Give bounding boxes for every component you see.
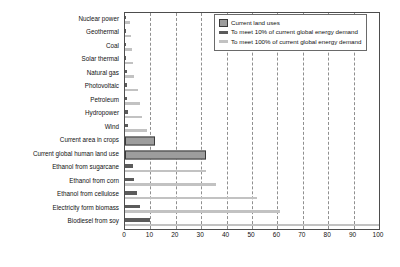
category-label: Wind <box>0 120 122 134</box>
bar-ten-percent-demand <box>125 218 150 221</box>
legend-item-hundred-percent-demand: To meet 100% of current global energy de… <box>219 37 361 47</box>
bar-hundred-percent-demand <box>125 210 280 213</box>
value-axis-tick-label: 100 <box>373 231 384 238</box>
category-label: Geothermal <box>0 26 122 40</box>
value-axis-tick-label: 10 <box>146 231 153 238</box>
category-label: Photovoltaic <box>0 80 122 94</box>
value-axis-ticks: 0102030405060708090100 <box>124 231 378 245</box>
value-axis-tick-label: 20 <box>171 231 178 238</box>
bar-ten-percent-demand <box>125 191 137 194</box>
bar-row <box>125 189 379 203</box>
legend-swatch-current-land-uses <box>219 19 228 27</box>
bar-ten-percent-demand <box>125 178 134 181</box>
bar-hundred-percent-demand <box>125 116 142 119</box>
chart-legend: Current land uses To meet 10% of current… <box>214 14 367 51</box>
horizontal-bar-chart: Nuclear powerGeothermalCoalSolar thermal… <box>0 0 400 267</box>
category-label: Ethanol from cellulose <box>0 188 122 202</box>
legend-label: Current land uses <box>231 20 280 26</box>
value-axis-tick-label: 40 <box>222 231 229 238</box>
category-label: Natural gas <box>0 66 122 80</box>
category-label: Ethanol from corn <box>0 174 122 188</box>
bar-ten-percent-demand <box>125 205 140 208</box>
bar-ten-percent-demand <box>125 29 126 32</box>
bar-hundred-percent-demand <box>125 224 379 227</box>
value-axis-tick-label: 80 <box>324 231 331 238</box>
value-axis-tick-label: 70 <box>298 231 305 238</box>
bar-row <box>125 108 379 122</box>
bar-row <box>125 121 379 135</box>
bar-hundred-percent-demand <box>125 35 131 38</box>
bar-row <box>125 216 379 230</box>
bar-hundred-percent-demand <box>125 75 134 78</box>
bar-row <box>125 162 379 176</box>
bar-hundred-percent-demand <box>125 183 216 186</box>
bar-ten-percent-demand <box>125 97 127 100</box>
bar-ten-percent-demand <box>125 43 126 46</box>
category-label: Coal <box>0 39 122 53</box>
bar-row <box>125 67 379 81</box>
bar-hundred-percent-demand <box>125 21 130 24</box>
value-axis-tick-label: 50 <box>247 231 254 238</box>
bar-current-land-uses <box>125 150 206 159</box>
value-axis-tick-label: 60 <box>273 231 280 238</box>
bar-ten-percent-demand <box>125 70 127 73</box>
bar-hundred-percent-demand <box>125 129 147 132</box>
bar-current-land-uses <box>125 137 155 146</box>
value-axis-tick-label: 90 <box>349 231 356 238</box>
category-label: Solar thermal <box>0 53 122 67</box>
legend-label: To meet 100% of current global energy de… <box>231 39 361 45</box>
category-label: Nuclear power <box>0 12 122 26</box>
bar-row <box>125 148 379 162</box>
category-label: Petroleum <box>0 93 122 107</box>
bar-ten-percent-demand <box>125 56 126 59</box>
bar-row <box>125 175 379 189</box>
bar-row <box>125 81 379 95</box>
legend-swatch-ten-percent-demand <box>219 28 228 36</box>
category-label: Current global human land use <box>0 147 122 161</box>
bar-ten-percent-demand <box>125 16 126 19</box>
bar-hundred-percent-demand <box>125 170 206 173</box>
bar-hundred-percent-demand <box>125 89 138 92</box>
legend-swatch-hundred-percent-demand <box>219 38 228 46</box>
category-label: Hydropower <box>0 107 122 121</box>
category-label: Electricity form biomass <box>0 201 122 215</box>
category-axis-labels: Nuclear powerGeothermalCoalSolar thermal… <box>0 12 122 228</box>
bar-ten-percent-demand <box>125 164 133 167</box>
category-label: Biodiesel from soy <box>0 215 122 229</box>
bar-row <box>125 202 379 216</box>
bar-hundred-percent-demand <box>125 197 257 200</box>
bar-row <box>125 54 379 68</box>
bar-ten-percent-demand <box>125 124 128 127</box>
legend-label: To meet 10% of current global energy dem… <box>231 29 358 35</box>
category-label: Current area in crops <box>0 134 122 148</box>
bar-hundred-percent-demand <box>125 102 140 105</box>
bar-ten-percent-demand <box>125 83 127 86</box>
value-axis-tick-label: 0 <box>122 231 126 238</box>
value-axis-tick-label: 30 <box>197 231 204 238</box>
bar-hundred-percent-demand <box>125 62 133 65</box>
legend-item-current-land-uses: Current land uses <box>219 18 361 28</box>
legend-item-ten-percent-demand: To meet 10% of current global energy dem… <box>219 28 361 38</box>
bar-hundred-percent-demand <box>125 48 132 51</box>
bar-row <box>125 135 379 149</box>
bar-ten-percent-demand <box>125 110 128 113</box>
bar-row <box>125 94 379 108</box>
category-label: Ethanol from sugarcane <box>0 161 122 175</box>
